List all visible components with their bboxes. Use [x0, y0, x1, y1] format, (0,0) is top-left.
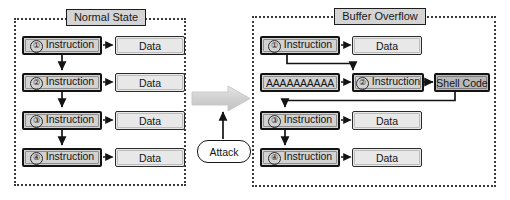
left-data-1-label: Data — [139, 40, 161, 52]
right-connector-layer — [0, 0, 510, 200]
right-instruction-3-label: Instruction — [284, 113, 332, 125]
right-shell-code[interactable]: Shell Code — [434, 73, 490, 92]
left-data-3[interactable]: Data — [115, 111, 185, 130]
right-instruction-3[interactable]: ③Instruction — [260, 111, 340, 130]
left-instruction-4-number: ④ — [30, 152, 43, 165]
left-instruction-3-label: Instruction — [46, 113, 94, 125]
left-data-1[interactable]: Data — [115, 36, 185, 55]
diagram-canvas: Normal State ①Instruction — [0, 0, 510, 200]
right-instruction-4-number: ④ — [268, 152, 281, 165]
left-data-2-label: Data — [139, 77, 161, 89]
right-instruction-1[interactable]: ①Instruction — [260, 36, 340, 55]
right-jog-1-to-2 — [287, 55, 353, 70]
left-instruction-4-label: Instruction — [46, 150, 94, 162]
right-instruction-1-label: Instruction — [284, 38, 332, 50]
attack-node[interactable]: Attack — [197, 140, 251, 163]
right-instruction-2-number: ② — [356, 77, 369, 90]
left-instruction-1[interactable]: ①Instruction — [22, 36, 102, 55]
right-overflow-payload[interactable]: AAAAAAAAAA — [260, 73, 340, 92]
left-instruction-1-label: Instruction — [46, 38, 94, 50]
left-data-2[interactable]: Data — [115, 73, 185, 92]
left-instruction-2-label: Instruction — [46, 75, 94, 87]
left-instruction-3-number: ③ — [30, 115, 43, 128]
right-overflow-payload-label: AAAAAAAAAA — [266, 77, 334, 89]
right-data-3-label: Data — [376, 115, 398, 127]
right-data-1[interactable]: Data — [352, 36, 422, 55]
right-instruction-2[interactable]: ②Instruction — [352, 73, 424, 92]
right-instruction-1-number: ① — [268, 40, 281, 53]
right-data-3[interactable]: Data — [352, 111, 422, 130]
left-data-4-label: Data — [139, 152, 161, 164]
left-instruction-2-number: ② — [30, 77, 43, 90]
right-instruction-4-label: Instruction — [284, 150, 332, 162]
left-instruction-3[interactable]: ③Instruction — [22, 111, 102, 130]
right-data-1-label: Data — [376, 40, 398, 52]
right-data-4[interactable]: Data — [352, 148, 422, 167]
left-data-3-label: Data — [139, 115, 161, 127]
attack-label: Attack — [209, 146, 238, 158]
right-instruction-3-number: ③ — [268, 115, 281, 128]
right-instruction-4[interactable]: ④Instruction — [260, 148, 340, 167]
right-instruction-2-label: Instruction — [372, 75, 420, 87]
right-data-4-label: Data — [376, 152, 398, 164]
left-data-4[interactable]: Data — [115, 148, 185, 167]
right-jog-shell-to-3 — [285, 92, 455, 107]
left-instruction-1-number: ① — [30, 40, 43, 53]
left-instruction-4[interactable]: ④Instruction — [22, 148, 102, 167]
panel-title-buffer-overflow: Buffer Overflow — [334, 8, 426, 25]
panel-title-normal-state: Normal State — [66, 9, 146, 26]
right-shell-code-label: Shell Code — [436, 77, 487, 89]
left-instruction-2[interactable]: ②Instruction — [22, 73, 102, 92]
